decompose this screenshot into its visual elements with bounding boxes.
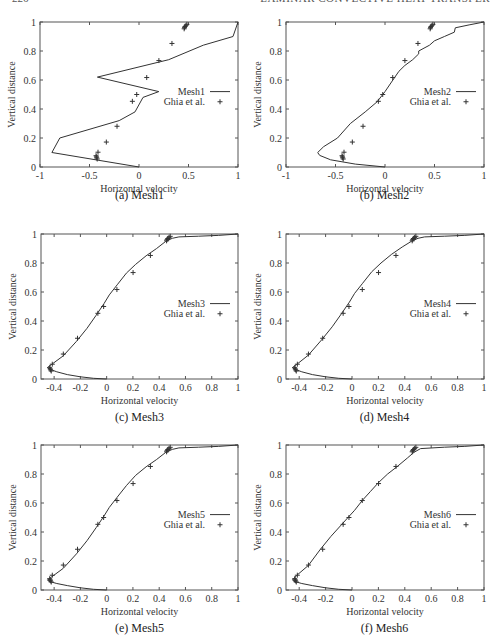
y-tick-label: 0.4 [270,527,283,538]
series-line-mesh6 [293,445,484,590]
x-tick-label: -0.2 [318,593,334,604]
x-tick-label: 0.4 [399,593,412,604]
x-tick-label: 1 [482,593,487,604]
legend-plus-marker-icon [464,522,469,527]
ghia-plus-marker [346,515,351,520]
x-tick-label: 0.2 [372,593,385,604]
ghia-plus-marker [376,481,381,486]
y-tick-label: 1 [277,440,282,451]
caption-f: (f) Mesh6 [259,621,502,636]
x-tick-label: 0 [350,593,355,604]
ghia-plus-marker [341,522,346,527]
x-tick-label: 0.8 [451,593,464,604]
ghia-plus-marker [320,547,325,552]
chart-f: 00.20.40.60.81-0.4-0.200.20.40.60.81Hori… [0,0,502,644]
x-tick-label: -0.4 [291,593,307,604]
y-tick-label: 0 [277,585,282,596]
x-axis-label: Horizontal velocity [346,606,423,617]
ghia-plus-marker [393,464,398,469]
y-tick-label: 0.8 [270,469,283,480]
y-tick-label: 0.2 [270,556,283,567]
y-tick-label: 0.6 [270,498,283,509]
legend-label-ghia: Ghia et al. [410,519,451,530]
plot-frame [286,445,484,590]
y-axis-label: Vertical distance [252,484,263,551]
x-tick-label: 0.6 [425,593,438,604]
ghia-plus-marker [410,449,415,454]
